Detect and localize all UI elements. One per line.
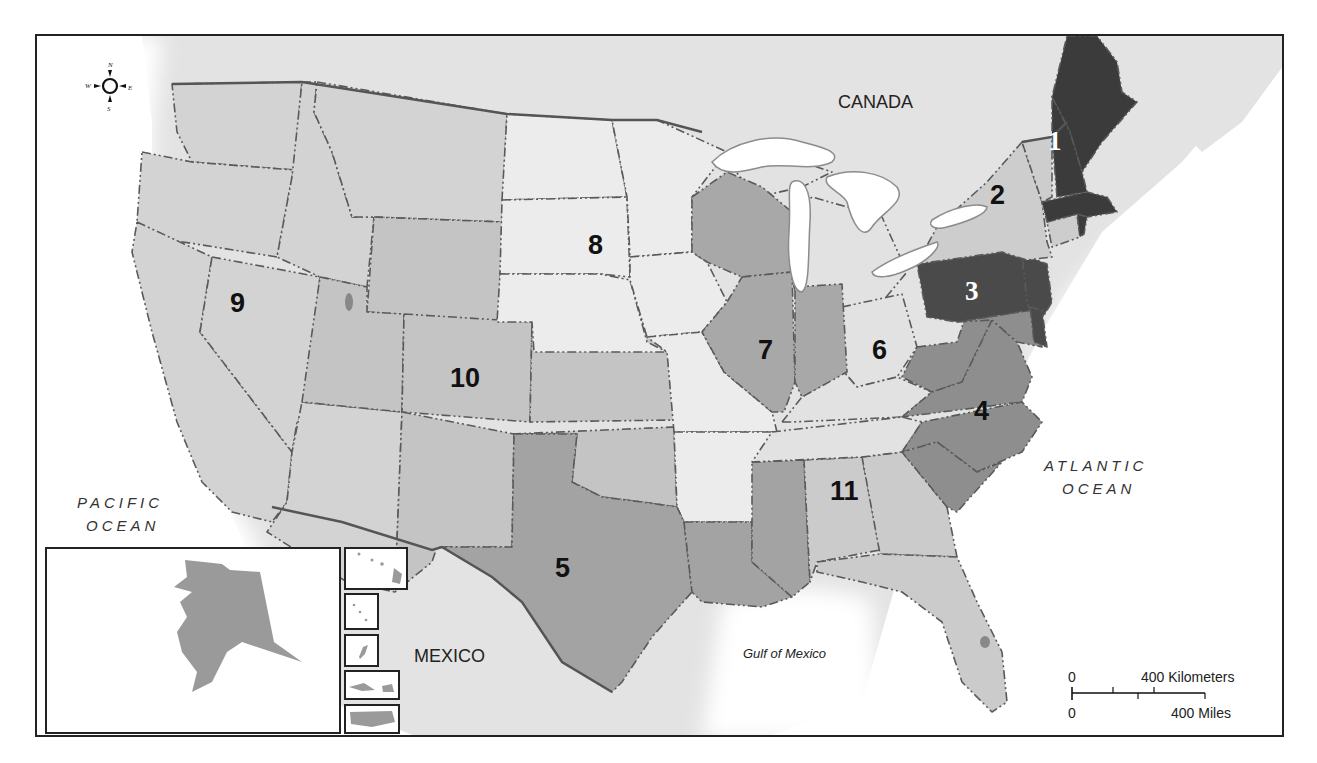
circuit-label-10: 10 [450,363,480,393]
circuit-label-2: 2 [990,180,1005,210]
lake-okeechobee [980,636,990,648]
circuit-label-1: 1 [1048,126,1062,156]
label-canada: CANADA [838,92,913,112]
scale-km-start: 0 [1068,669,1076,685]
compass-e: E [127,84,133,92]
inset-alaska [46,548,340,733]
label-pacific-2: OCEAN [86,517,159,534]
circuit-label-6: 6 [872,335,887,365]
inset-hawaii [345,548,407,589]
circuit-label-8: 8 [588,230,603,260]
lake-michigan [789,181,811,292]
circuit-label-7: 7 [758,335,773,365]
state-south-dakota [500,197,630,277]
circuit-label-5: 5 [555,553,570,583]
compass-n: N [107,61,113,69]
label-atlantic-2: OCEAN [1062,480,1135,497]
map-frame: 1 2 3 4 5 6 7 8 9 10 11 CANADA MEXICO PA… [35,34,1284,737]
circuit-label-4: 4 [974,396,989,426]
circuit-label-9: 9 [230,288,245,318]
inset-virgin-islands [345,671,399,699]
state-north-dakota [502,114,627,200]
state-wyoming [367,217,502,322]
label-atlantic-1: ATLANTIC [1043,457,1147,474]
inset-puerto-rico [345,705,399,733]
inset-guam [345,635,378,666]
great-salt-lake [345,293,353,311]
circuit-label-3: 3 [965,276,979,306]
label-gulf-of-mexico: Gulf of Mexico [743,646,826,661]
scale-km-label: 400 Kilometers [1141,669,1234,685]
compass-s: S [107,105,111,113]
circuit-label-11: 11 [830,476,859,506]
state-washington [172,82,302,170]
inset-northern-mariana [345,594,378,629]
label-pacific-1: PACIFIC [77,494,163,511]
scale-mi-label: 400 Miles [1171,705,1231,721]
scale-mi-start: 0 [1068,705,1076,721]
us-circuits-map: 1 2 3 4 5 6 7 8 9 10 11 CANADA MEXICO PA… [37,36,1284,737]
label-mexico: MEXICO [414,646,485,666]
